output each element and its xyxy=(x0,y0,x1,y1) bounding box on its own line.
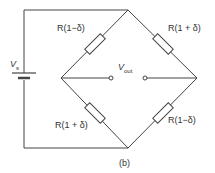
resistor-top-left xyxy=(85,34,106,55)
resistor-label-top-right: R(1 + δ) xyxy=(168,24,201,33)
resistor-label-bottom-right: R(1−δ) xyxy=(168,116,196,125)
vout-terminal-right xyxy=(143,76,147,80)
bridge-circuit-diagram: R(1−δ) R(1 + δ) R(1 + δ) R(1−δ) Vs Vout … xyxy=(0,0,215,173)
output-voltage-label: Vout xyxy=(118,63,132,72)
resistor-top-right xyxy=(153,34,174,55)
resistor-label-bottom-left: R(1 + δ) xyxy=(55,121,88,130)
top-wire xyxy=(24,10,128,73)
bottom-wire xyxy=(24,80,128,148)
source-voltage-label: Vs xyxy=(10,60,19,69)
vout-terminal-left xyxy=(109,76,113,80)
resistor-label-top-left: R(1−δ) xyxy=(57,24,85,33)
figure-caption: (b) xyxy=(119,159,130,168)
